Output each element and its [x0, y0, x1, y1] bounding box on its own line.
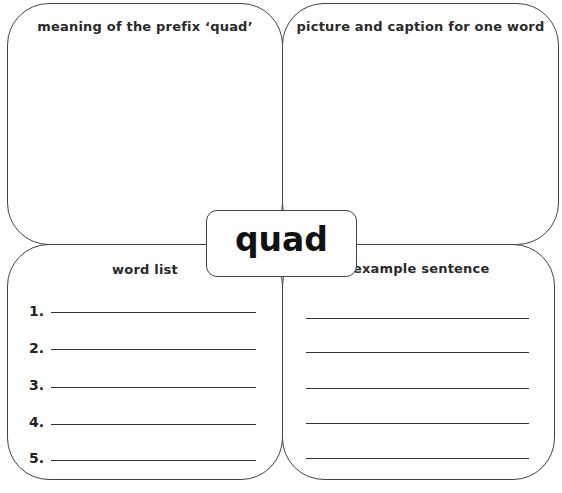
item-number: 4.: [29, 414, 44, 430]
center-word-box: quad: [206, 210, 357, 277]
item-number: 3.: [29, 377, 44, 393]
panel-prefix-meaning: meaning of the prefix ‘quad’: [7, 3, 283, 245]
write-line[interactable]: [306, 458, 529, 459]
write-line[interactable]: [51, 349, 256, 350]
panel-picture-caption: picture and caption for one word: [282, 3, 559, 245]
write-line[interactable]: [51, 312, 256, 313]
write-line[interactable]: [306, 352, 529, 353]
panel-title: example sentence: [353, 261, 489, 276]
item-number: 5.: [29, 450, 44, 466]
write-line[interactable]: [306, 388, 529, 389]
item-number: 1.: [29, 303, 44, 319]
write-line[interactable]: [51, 387, 256, 388]
center-word: quad: [235, 220, 328, 259]
item-number: 2.: [29, 340, 44, 356]
write-line[interactable]: [306, 318, 529, 319]
write-line[interactable]: [51, 460, 256, 461]
panel-example-sentence: example sentence: [282, 244, 555, 480]
panel-title: meaning of the prefix ‘quad’: [8, 19, 282, 34]
write-line[interactable]: [306, 423, 529, 424]
write-line[interactable]: [51, 424, 256, 425]
panel-title: picture and caption for one word: [283, 19, 558, 34]
panel-word-list: word list 1. 2. 3. 4. 5.: [7, 244, 283, 480]
